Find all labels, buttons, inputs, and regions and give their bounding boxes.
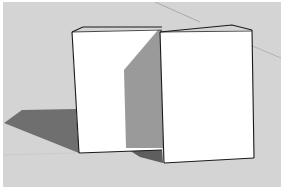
scene-canvas[interactable] (3, 2, 281, 187)
model-viewport[interactable]: 3D model viewport (3, 2, 281, 187)
right-box-face (160, 30, 254, 163)
